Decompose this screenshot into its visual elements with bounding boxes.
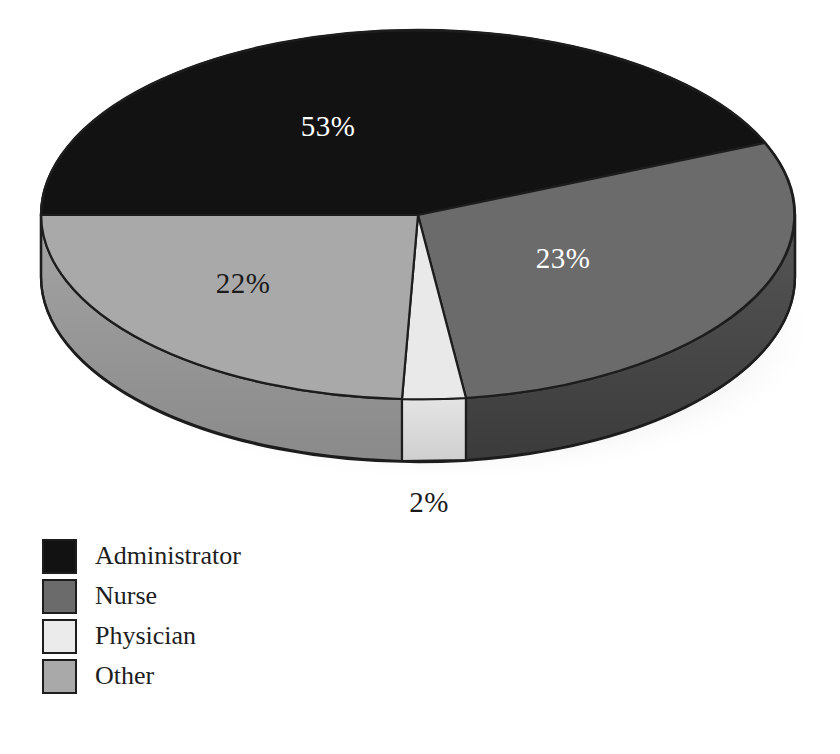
legend-swatch-other <box>42 659 77 694</box>
legend-item-administrator[interactable]: Administrator <box>42 536 372 576</box>
legend-label-physician: Physician <box>95 623 196 649</box>
legend-item-nurse[interactable]: Nurse <box>42 576 372 616</box>
legend-item-other[interactable]: Other <box>42 656 372 696</box>
legend-label-administrator: Administrator <box>95 543 241 569</box>
legend-item-physician[interactable]: Physician <box>42 616 372 656</box>
legend-swatch-administrator <box>42 539 77 574</box>
legend-label-other: Other <box>95 663 154 689</box>
slice-label-other: 22% <box>216 267 271 299</box>
pie-chart-figure: 53% 23% 22% 2% Administrator Nurse Physi… <box>0 0 840 754</box>
legend-label-nurse: Nurse <box>95 583 157 609</box>
legend-swatch-physician <box>42 619 77 654</box>
pie-chart-graphic: 53% 23% 22% 2% <box>0 0 840 520</box>
slice-label-nurse: 23% <box>536 242 591 274</box>
pie-wall-physician <box>402 398 466 461</box>
slice-label-administrator: 53% <box>301 110 356 142</box>
slice-label-physician: 2% <box>409 486 449 518</box>
legend-swatch-nurse <box>42 579 77 614</box>
chart-legend: Administrator Nurse Physician Other <box>42 536 372 696</box>
